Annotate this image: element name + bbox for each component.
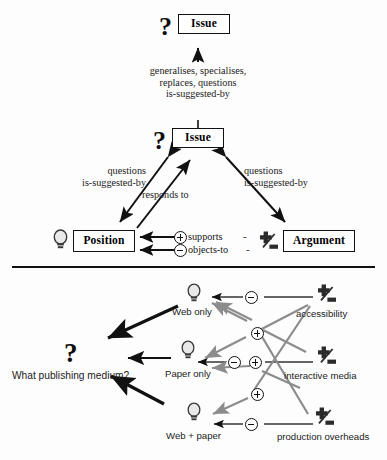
position-label-web-only: Web only [172, 306, 212, 317]
lightbulb-icon [186, 402, 202, 423]
supports-label: supports [188, 231, 223, 242]
edge-label-line: questions [26, 165, 146, 177]
argument-plus-minus-icon [258, 230, 280, 253]
argument-label-production-overheads: production overheads [277, 431, 369, 442]
node-position[interactable]: Position [73, 230, 135, 252]
edge-web-only-to-question [108, 306, 178, 338]
node-argument-label: Argument [293, 235, 345, 247]
node-argument[interactable]: Argument [283, 230, 355, 252]
edge-label-responds-to: responds to [142, 189, 189, 201]
lightbulb-icon [186, 283, 202, 304]
edge-label-line: questions [244, 165, 374, 177]
edge-label-line: generalises, specialises, [118, 65, 278, 77]
node-issue-top-label: Issue [191, 18, 217, 30]
objects-to-dash: - [246, 243, 250, 255]
node-issue-middle[interactable]: Issue [172, 128, 224, 148]
lower-question-label: What publishing medium? [12, 370, 129, 381]
supports-dash: - [243, 230, 247, 242]
panel-divider [12, 266, 375, 268]
edge-label-line: is-suggested-by [26, 177, 146, 189]
edge-label-issue-to-issue: generalises, specialises, replaces, ques… [118, 65, 278, 100]
objects-to-minus-badge [174, 244, 187, 257]
position-label-paper-only: Paper only [165, 368, 211, 379]
edge-label-line: is-suggested-by [118, 88, 278, 100]
edge-label-line: replaces, questions [118, 77, 278, 89]
lightbulb-icon [180, 340, 196, 361]
link-sign-accessibility-web-only [245, 291, 258, 304]
node-position-label: Position [83, 235, 124, 247]
link-sign-interactive-media-web-only [251, 327, 264, 340]
node-issue-top[interactable]: Issue [178, 14, 230, 34]
link-sign-accessibility-web-paper [251, 388, 264, 401]
supports-plus-badge [174, 231, 187, 244]
diagram-canvas: ? Issue generalises, specialises, replac… [0, 0, 387, 460]
argument-plus-minus-icon [316, 345, 338, 368]
question-mark-icon: ? [159, 14, 172, 40]
edge-label-line: is-suggested-by [244, 177, 374, 189]
argument-label-interactive-media: interactive media [284, 370, 357, 381]
argument-label-accessibility: accessibility [296, 308, 347, 319]
edge-label-issue-to-position: questions is-suggested-by [26, 165, 146, 188]
edge-label-issue-to-argument: questions is-suggested-by [244, 165, 374, 188]
link-sign-production-overheads-web-paper [245, 418, 258, 431]
objects-to-label: objects-to [188, 244, 228, 255]
edge-label-line: responds to [142, 189, 189, 201]
node-issue-middle-label: Issue [185, 132, 211, 144]
lightbulb-icon [52, 229, 69, 251]
link-sign-accessibility-paper-only [249, 356, 262, 369]
question-mark-icon: ? [153, 128, 166, 154]
link-sign-interactive-media-paper-only [228, 356, 241, 369]
argument-plus-minus-icon [316, 283, 338, 306]
position-label-web-paper: Web + paper [166, 430, 221, 441]
argument-plus-minus-icon [314, 406, 336, 429]
question-mark-icon: ? [64, 340, 78, 367]
